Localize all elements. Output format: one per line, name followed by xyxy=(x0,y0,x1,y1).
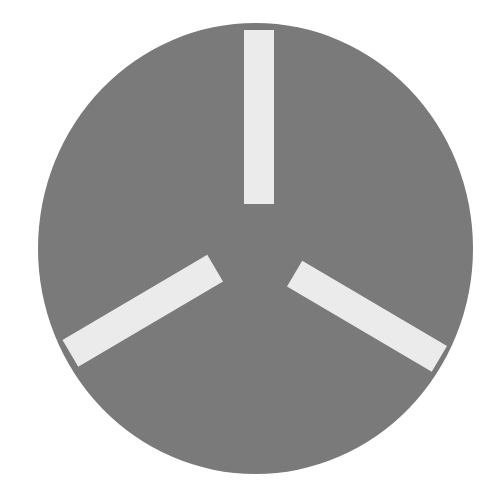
top-bar xyxy=(244,30,274,204)
tri-spoke-disc-figure xyxy=(0,0,501,504)
